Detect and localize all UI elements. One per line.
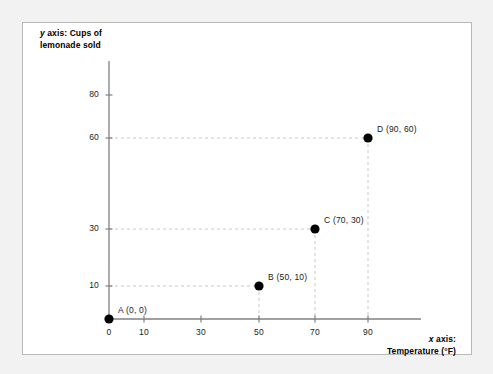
x-axis-title-text: axis: Temperature (°F) [387, 334, 456, 356]
data-point-D[interactable] [363, 133, 372, 142]
plot-svg [23, 23, 473, 356]
data-point-C[interactable] [310, 224, 319, 233]
point-label-D: D (90, 60) [377, 124, 417, 134]
x-tick-label-70: 70 [303, 327, 327, 337]
point-label-B: B (50, 10) [268, 272, 307, 282]
y-axis-title-text: axis: Cups of lemonade sold [40, 28, 102, 50]
x-tick-label-10: 10 [132, 327, 156, 337]
point-label-C: C (70, 30) [324, 215, 364, 225]
axis-lines [109, 61, 421, 319]
plot-area: y axis: Cups of lemonade sold x axis: Te… [23, 23, 473, 356]
x-tick-label-30: 30 [189, 327, 213, 337]
data-point-markers [104, 133, 372, 323]
y-axis-title: y axis: Cups of lemonade sold [40, 28, 102, 51]
figure-card: y axis: Cups of lemonade sold x axis: Te… [22, 22, 472, 355]
x-tick-label-90: 90 [356, 327, 380, 337]
x-tick-label-0: 0 [97, 327, 121, 337]
data-point-B[interactable] [254, 281, 263, 290]
data-point-A[interactable] [104, 314, 113, 323]
y-tick-label-30: 30 [75, 223, 99, 233]
y-tick-label-60: 60 [75, 132, 99, 142]
y-tick-label-80: 80 [75, 89, 99, 99]
tick-marks [106, 95, 369, 323]
gridlines [109, 138, 368, 319]
x-axis-title: x axis: Temperature (°F) [316, 334, 456, 357]
x-tick-label-50: 50 [247, 327, 271, 337]
y-tick-label-10: 10 [75, 280, 99, 290]
point-label-A: A (0, 0) [118, 305, 147, 315]
